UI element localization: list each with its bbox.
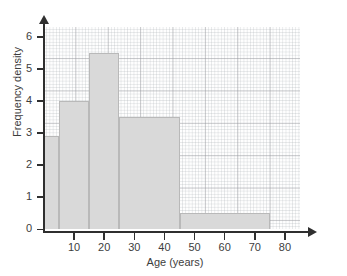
y-axis-tick-label: 0 xyxy=(2,222,32,234)
x-axis-tick xyxy=(164,233,166,240)
y-axis-tick xyxy=(37,68,44,70)
x-axis-title: Age (years) xyxy=(110,256,240,268)
y-axis-tick xyxy=(37,164,44,166)
histogram-bars xyxy=(44,27,300,229)
histogram-bar xyxy=(59,101,89,229)
y-axis-tick xyxy=(37,196,44,198)
x-axis-tick-label: 20 xyxy=(89,241,119,253)
x-axis-line xyxy=(43,231,311,233)
y-axis-tick xyxy=(37,100,44,102)
x-axis-tick xyxy=(73,233,75,240)
y-axis-tick xyxy=(37,229,44,231)
x-axis-tick-label: 80 xyxy=(270,241,300,253)
y-axis-arrow-icon xyxy=(39,15,49,24)
y-axis-tick-label: 1 xyxy=(2,190,32,202)
y-axis-tick-label: 2 xyxy=(2,158,32,170)
histogram-bar xyxy=(119,117,179,229)
y-axis-tick xyxy=(37,36,44,38)
x-axis-tick xyxy=(134,233,136,240)
x-axis-tick xyxy=(103,233,105,240)
histogram-bar xyxy=(44,136,59,229)
x-axis-tick xyxy=(194,233,196,240)
y-axis-title: Frequency density xyxy=(11,27,23,157)
y-axis-tick xyxy=(37,132,44,134)
x-axis-tick-label: 50 xyxy=(180,241,210,253)
y-axis-line xyxy=(43,22,45,233)
x-axis-tick xyxy=(224,233,226,240)
plot-area xyxy=(44,27,300,229)
histogram-bar xyxy=(89,53,119,229)
x-axis-tick-label: 10 xyxy=(59,241,89,253)
x-axis-tick-label: 60 xyxy=(210,241,240,253)
x-axis-arrow-icon xyxy=(308,227,317,237)
x-axis-tick xyxy=(254,233,256,240)
x-axis-tick xyxy=(284,233,286,240)
x-axis-tick-label: 70 xyxy=(240,241,270,253)
histogram-figure: 0123456 1020304050607080 Frequency densi… xyxy=(0,0,347,276)
x-axis-tick-label: 30 xyxy=(119,241,149,253)
x-axis-tick-label: 40 xyxy=(149,241,179,253)
histogram-bar xyxy=(180,213,270,229)
